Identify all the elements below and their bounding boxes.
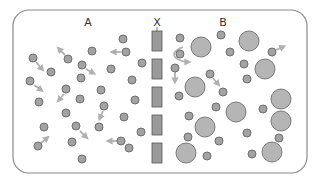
solvent-particle: [137, 128, 145, 136]
solvent-particle: [119, 35, 127, 43]
solvent-particle: [47, 68, 55, 76]
solvent-particle: [175, 92, 183, 100]
solvent-particle: [176, 50, 184, 58]
solvent-particle: [40, 123, 48, 131]
solvent-particle: [268, 48, 276, 56]
solvent-particle: [78, 61, 86, 69]
solvent-particle: [78, 155, 86, 163]
solvent-particle: [68, 138, 76, 146]
solvent-particle: [176, 34, 184, 42]
solute-particle: [226, 102, 246, 122]
solvent-particle: [120, 113, 128, 121]
solvent-particle: [125, 144, 133, 152]
solute-particle: [255, 59, 275, 79]
solvent-particle: [184, 133, 192, 141]
solute-particle: [176, 143, 196, 163]
solvent-particle: [226, 48, 234, 56]
solvent-particle: [171, 64, 179, 72]
solvent-particle: [212, 103, 220, 111]
solvent-particle: [240, 60, 248, 68]
solvent-particle: [259, 105, 267, 113]
side-b-label: B: [219, 16, 227, 29]
solvent-particle: [203, 152, 211, 160]
solute-particle: [271, 111, 291, 131]
solvent-particle: [117, 137, 125, 145]
solute-particle: [239, 31, 259, 51]
solvent-particle: [26, 77, 34, 85]
solvent-particle: [34, 142, 42, 150]
solvent-particle: [138, 59, 146, 67]
solute-particle: [185, 77, 205, 97]
side-a-label: A: [84, 16, 92, 29]
solvent-particle: [206, 70, 214, 78]
membrane-segment: [152, 87, 162, 107]
solvent-particle: [131, 96, 139, 104]
solvent-particle: [72, 122, 80, 130]
solvent-particle: [217, 31, 225, 39]
solute-particle: [262, 142, 282, 162]
solvent-particle: [248, 150, 256, 158]
solvent-particle: [29, 54, 37, 62]
solvent-particle: [95, 123, 103, 131]
solvent-particle: [219, 88, 227, 96]
solvent-particle: [100, 102, 108, 110]
solvent-particle: [64, 55, 72, 63]
semipermeable-membrane: [152, 31, 162, 163]
solvent-particle: [243, 129, 251, 137]
solvent-particle: [107, 65, 115, 73]
solvent-particle: [35, 98, 43, 106]
solvent-particle: [97, 86, 105, 94]
membrane-segment: [152, 143, 162, 163]
solvent-particle: [243, 75, 251, 83]
solvent-particle: [88, 47, 96, 55]
membrane-segment: [152, 31, 162, 51]
solvent-particle: [185, 112, 193, 120]
solvent-particle: [215, 137, 223, 145]
solvent-particle: [122, 48, 130, 56]
membrane-segment: [152, 115, 162, 135]
membrane-segment: [152, 59, 162, 79]
solvent-particle: [62, 85, 70, 93]
solute-particle: [191, 37, 211, 57]
solvent-particle: [77, 74, 85, 82]
solvent-particle: [76, 95, 84, 103]
osmosis-diagram: A X B: [0, 0, 318, 179]
solute-particle: [195, 117, 215, 137]
solvent-particle: [62, 109, 70, 117]
solute-particle: [271, 89, 291, 109]
solvent-particle: [275, 134, 283, 142]
solvent-particle: [128, 76, 136, 84]
